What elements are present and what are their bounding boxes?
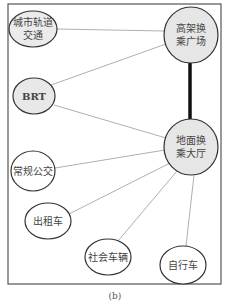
node-label: 社会车辆: [88, 251, 128, 263]
edge-brt-to-ground-hall: [54, 105, 166, 138]
node-ground-hall: 地面换乘大厅: [164, 119, 218, 175]
edge-private-car-to-ground-hall: [118, 171, 177, 241]
edge-brt-to-elevated-plaza: [51, 44, 166, 85]
node-label: 高架换: [176, 22, 206, 34]
node-label: 乘广场: [176, 35, 206, 47]
node-brt: BRT: [13, 78, 55, 114]
node-elevated-plaza: 高架换乘广场: [164, 7, 218, 63]
node-ellipse: [164, 119, 218, 175]
node-label: 出租车: [33, 215, 63, 227]
transfer-network-diagram: 城市轨道交通高架换乘广场BRT地面换乘大厅常规公交出租车社会车辆自行车 (b): [0, 0, 229, 305]
edge-taxi-to-ground-hall: [69, 163, 170, 214]
node-bicycle: 自行车: [160, 246, 206, 284]
node-label: 城市轨道: [13, 16, 53, 28]
edge-bicycle-to-ground-hall: [186, 175, 194, 246]
node-regular-bus: 常规公交: [11, 151, 55, 191]
edge-regular-bus-to-ground-hall: [55, 150, 165, 168]
node-label: 常规公交: [13, 165, 53, 177]
node-urban-rail: 城市轨道交通: [9, 11, 57, 47]
node-private-car: 社会车辆: [85, 239, 131, 275]
node-label: 自行车: [168, 259, 198, 271]
edge-urban-rail-to-elevated-plaza: [57, 29, 164, 31]
node-label: 乘大厅: [176, 147, 206, 159]
node-label: BRT: [22, 91, 47, 102]
node-taxi: 出租车: [25, 203, 71, 239]
node-label: 地面换: [176, 134, 206, 146]
node-label: 交通: [23, 29, 43, 41]
figure-caption: (b): [109, 291, 122, 301]
node-ellipse: [164, 7, 218, 63]
